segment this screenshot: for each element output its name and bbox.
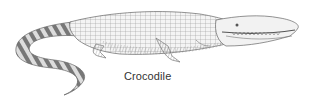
crocodile-drawing xyxy=(0,0,319,97)
crocodile-illustration xyxy=(0,0,319,97)
caption-label: Crocodile xyxy=(124,70,171,82)
